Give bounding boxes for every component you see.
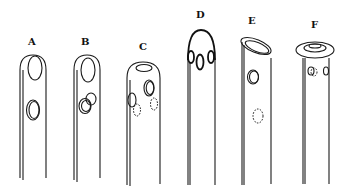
label-a: A (27, 36, 36, 47)
tip-c: C (127, 41, 160, 186)
tip-b: B (74, 36, 100, 182)
tip-a: A (20, 36, 46, 180)
hole-icon (28, 56, 42, 80)
hole-inner-icon (29, 102, 39, 119)
hidden-hole-icon (151, 98, 158, 110)
hole-icon (197, 55, 204, 70)
lumen-opening-icon (309, 44, 321, 48)
hole-inner-icon (250, 71, 259, 83)
label-f: F (311, 19, 318, 30)
tip-d: D (188, 9, 215, 185)
catheter-tips-figure: A B C D E (0, 0, 352, 196)
hole-inner-icon (146, 82, 154, 95)
tip-e: E (239, 15, 274, 185)
label-d: D (196, 9, 205, 20)
tube-a-outline (20, 55, 46, 178)
label-e: E (248, 15, 256, 26)
hole-icon (128, 93, 136, 107)
tip-f: F (296, 19, 334, 184)
tube-b-outline (74, 55, 100, 180)
tube-c-outline (127, 62, 160, 185)
hole-icon (208, 51, 214, 63)
label-c: C (139, 41, 147, 52)
hole-icon (81, 58, 95, 82)
end-opening-icon (136, 65, 152, 72)
hidden-hole-icon (134, 104, 141, 116)
hidden-hole-icon (253, 109, 263, 123)
hole-inner-icon (82, 101, 91, 112)
hole-icon (324, 67, 329, 75)
label-b: B (81, 36, 89, 47)
figure-drawing: A B C D E (0, 0, 352, 196)
hole-icon (188, 51, 194, 63)
